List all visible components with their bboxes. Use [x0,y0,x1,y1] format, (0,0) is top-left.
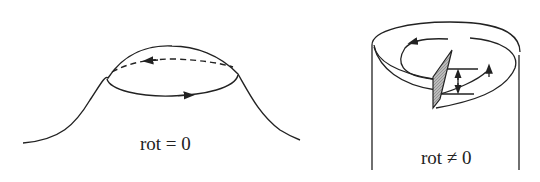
arrow-back-icon [145,60,158,61]
loop-front [107,75,238,96]
label-rot-zero: rot = 0 [140,133,191,155]
loop-back [112,59,233,72]
arrow-front-icon [178,95,192,96]
spiral-outer [436,38,516,108]
ramp-face [433,50,452,108]
hill-figure [23,46,300,143]
hill-profile [23,46,300,143]
cylinder-top-ellipse [372,22,520,52]
label-rot-nonzero: rot ≠ 0 [421,147,472,169]
